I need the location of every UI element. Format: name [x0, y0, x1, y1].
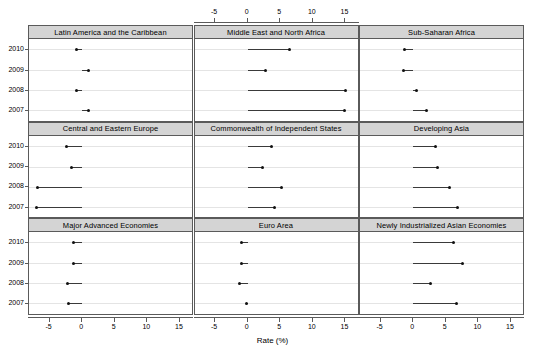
x-axis-tick	[81, 318, 82, 322]
x-axis-tick-label: 15	[500, 323, 520, 330]
gridline	[29, 167, 192, 168]
y-axis-tick-label: 2007	[0, 299, 24, 306]
x-axis-tick	[49, 318, 50, 322]
gridline	[29, 283, 192, 284]
x-axis-tick	[247, 318, 248, 322]
y-axis-tick	[25, 70, 28, 71]
gridline	[195, 207, 358, 208]
x-axis-tick	[510, 318, 511, 322]
x-axis-tick-label: 15	[334, 8, 354, 15]
value-segment	[413, 187, 449, 188]
gridline	[29, 263, 192, 264]
panel-2: Sub-Saharan Africa	[359, 25, 524, 122]
data-point	[425, 109, 428, 112]
gridline	[360, 90, 523, 91]
x-axis-tick-label: 10	[467, 323, 487, 330]
value-segment	[37, 187, 82, 188]
x-axis-tick-label: 10	[136, 323, 156, 330]
y-axis-tick-label: 2008	[0, 86, 24, 93]
data-point	[402, 69, 405, 72]
y-axis-tick-label: 2009	[0, 66, 24, 73]
x-axis-tick	[380, 318, 381, 322]
panel-strip-label: Major Advanced Economies	[29, 219, 192, 232]
data-point	[448, 186, 451, 189]
data-point	[87, 69, 90, 72]
y-axis-tick-label: 2009	[0, 162, 24, 169]
data-point	[87, 109, 90, 112]
y-axis-tick	[25, 146, 28, 147]
value-segment	[248, 90, 346, 91]
value-segment	[413, 207, 457, 208]
trellis-dot-plot-chart: Latin America and the CaribbeanMiddle Ea…	[0, 0, 545, 362]
data-point	[403, 48, 406, 51]
gridline	[360, 110, 523, 111]
x-axis-tick-label: -5	[204, 323, 224, 330]
data-point	[344, 89, 347, 92]
panel-strip-label: Middle East and North Africa	[195, 26, 358, 39]
panel-plot-area	[195, 136, 358, 218]
x-axis-tick	[312, 18, 313, 22]
x-axis-tick	[114, 318, 115, 322]
y-axis-tick	[25, 90, 28, 91]
x-axis-tick	[445, 318, 446, 322]
data-point	[75, 89, 78, 92]
panel-plot-area	[29, 136, 192, 218]
data-point	[452, 241, 455, 244]
y-axis-tick-label: 2008	[0, 182, 24, 189]
panel-5: Developing Asia	[359, 122, 524, 219]
x-axis-tick-label: 0	[237, 323, 257, 330]
data-point	[415, 89, 418, 92]
value-segment	[413, 167, 437, 168]
value-segment	[72, 167, 82, 168]
panel-7: Euro Area	[194, 218, 359, 315]
data-point	[240, 241, 243, 244]
data-point	[66, 282, 69, 285]
x-axis-tick	[477, 318, 478, 322]
gridline	[195, 146, 358, 147]
x-axis-tick-label: 10	[302, 323, 322, 330]
x-axis-tick-label: -5	[39, 323, 59, 330]
gridline	[195, 263, 358, 264]
panel-plot-area	[195, 39, 358, 121]
data-point	[270, 145, 273, 148]
data-point	[238, 282, 241, 285]
value-segment	[248, 146, 272, 147]
x-axis-tick-label: 0	[402, 323, 422, 330]
x-axis-tick-label: 5	[269, 323, 289, 330]
y-axis-tick	[25, 186, 28, 187]
data-point	[280, 186, 283, 189]
x-axis-tick-label: 0	[237, 8, 257, 15]
x-axis-tick-label: 0	[71, 323, 91, 330]
gridline	[360, 146, 523, 147]
x-axis-tick-label: 10	[302, 8, 322, 15]
value-segment	[248, 70, 266, 71]
data-point	[343, 109, 346, 112]
data-point	[434, 145, 437, 148]
x-axis-tick-label: 5	[104, 323, 124, 330]
x-axis-tick	[146, 318, 147, 322]
y-axis-tick-label: 2007	[0, 106, 24, 113]
y-axis-tick	[25, 110, 28, 111]
data-point	[240, 262, 243, 265]
y-axis-tick	[25, 303, 28, 304]
x-axis-line	[194, 22, 359, 23]
gridline	[195, 70, 358, 71]
y-axis-tick	[25, 49, 28, 50]
value-segment	[413, 303, 457, 304]
x-axis-tick-label: -5	[204, 8, 224, 15]
y-axis-tick-label: 2008	[0, 279, 24, 286]
gridline	[29, 146, 192, 147]
panel-strip-label: Sub-Saharan Africa	[360, 26, 523, 39]
y-axis-tick	[25, 207, 28, 208]
data-point	[273, 206, 276, 209]
value-segment	[413, 283, 431, 284]
x-axis-tick	[214, 318, 215, 322]
panel-plot-area	[360, 39, 523, 121]
gridline	[360, 167, 523, 168]
panel-strip-label: Euro Area	[195, 219, 358, 232]
x-axis-tick	[214, 18, 215, 22]
x-axis-tick-label: 15	[334, 323, 354, 330]
data-point	[288, 48, 291, 51]
x-axis-tick	[247, 18, 248, 22]
y-axis-tick	[25, 283, 28, 284]
